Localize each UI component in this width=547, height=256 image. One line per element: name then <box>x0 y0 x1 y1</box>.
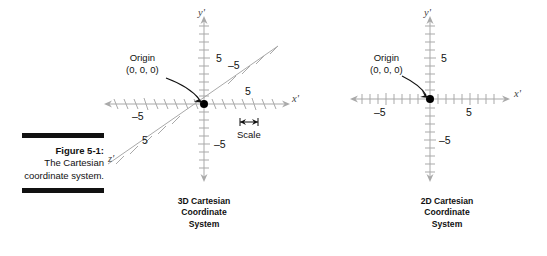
panel-caption-3d-line-3: System <box>104 219 304 230</box>
panel-caption-2d-line-1: 2D Cartesian <box>348 196 546 207</box>
x-axis-label-3d: x' <box>291 93 300 104</box>
figure-caption-text: Figure 5-1: The Cartesian coordinate sys… <box>22 145 104 182</box>
x-tick-label-negative-3d: –5 <box>132 110 144 122</box>
plot-area-2d: 5 –5 5 –5 y' x' Origin (0, 0, 0) <box>348 6 546 186</box>
y-tick-label-positive-2d: 5 <box>441 52 447 64</box>
plot-area-3d: 5 –5 5 –5 –5 5 y' x' z' Origin (0, 0, 0)… <box>104 6 304 186</box>
figure-caption-block: Figure 5-1: The Cartesian coordinate sys… <box>22 133 104 193</box>
panel-caption-3d-line-1: 3D Cartesian <box>104 196 304 207</box>
diagram-3d-axes: 5 –5 5 –5 –5 5 y' x' z' <box>104 6 304 186</box>
caption-rule-top <box>22 133 104 138</box>
origin-dot-2d <box>426 95 434 103</box>
y-axis-label-3d: y' <box>197 7 206 18</box>
y-tick-label-positive-3d: 5 <box>216 52 222 64</box>
x-axis-label-2d: x' <box>513 88 522 99</box>
y-axis-label-2d: y' <box>423 7 432 18</box>
origin-annotation-coords-3d: (0, 0, 0) <box>126 64 159 76</box>
panel-2d-cartesian: 5 –5 5 –5 y' x' Origin (0, 0, 0) 2D Cart… <box>348 6 546 186</box>
z-axis-label-3d: z' <box>107 153 115 164</box>
figure-description: The Cartesian coordinate system. <box>22 157 104 182</box>
z-tick-label-negative-3d: –5 <box>228 59 240 71</box>
origin-leader-line-3d <box>166 78 199 99</box>
x-tick-label-positive-2d: 5 <box>466 106 472 118</box>
panel-caption-2d: 2D Cartesian Coordinate System <box>348 196 546 230</box>
scale-annotation-3d: Scale <box>237 129 261 141</box>
diagram-2d-axes: 5 –5 5 –5 y' x' <box>348 6 546 186</box>
origin-annotation-coords-2d: (0, 0, 0) <box>370 64 403 76</box>
panel-caption-3d-line-2: Coordinate <box>104 207 304 218</box>
origin-annotation-title-2d: Origin <box>370 52 403 64</box>
panel-3d-cartesian: 5 –5 5 –5 –5 5 y' x' z' Origin (0, 0, 0)… <box>104 6 304 186</box>
origin-leader-line-2d <box>402 76 426 95</box>
origin-annotation-2d: Origin (0, 0, 0) <box>370 52 403 75</box>
scale-indicator-3d <box>240 118 258 126</box>
figure-number-label: Figure 5-1: <box>22 145 104 157</box>
panel-caption-3d: 3D Cartesian Coordinate System <box>104 196 304 230</box>
origin-annotation-title-3d: Origin <box>126 52 159 64</box>
y-tick-label-negative-2d: –5 <box>439 134 451 146</box>
x-tick-label-negative-2d: –5 <box>374 106 386 118</box>
panel-caption-2d-line-2: Coordinate <box>348 207 546 218</box>
caption-rule-bottom <box>22 188 104 193</box>
origin-annotation-3d: Origin (0, 0, 0) <box>126 52 159 75</box>
z-tick-label-positive-3d: 5 <box>142 134 148 146</box>
y-tick-label-negative-3d: –5 <box>214 138 226 150</box>
x-tick-label-positive-3d: 5 <box>245 85 251 97</box>
panel-caption-2d-line-3: System <box>348 219 546 230</box>
